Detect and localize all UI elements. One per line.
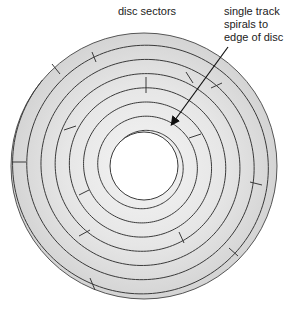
single-track-label: single track spirals to edge of disc bbox=[224, 5, 283, 44]
center-hole bbox=[110, 132, 178, 200]
disc bbox=[11, 33, 277, 299]
single-track-label-line-2: spirals to bbox=[224, 18, 283, 31]
disc-sectors-label: disc sectors bbox=[118, 5, 176, 18]
single-track-label-line-1: single track bbox=[224, 5, 283, 18]
disc-diagram bbox=[0, 0, 286, 313]
single-track-label-line-3: edge of disc bbox=[224, 31, 283, 44]
